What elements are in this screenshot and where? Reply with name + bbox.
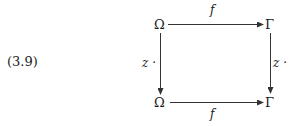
label-right-z: z ·	[273, 57, 287, 69]
node-top-right: Γ	[265, 18, 274, 31]
label-left-z: z ·	[142, 57, 156, 69]
node-bottom-right: Γ	[265, 96, 274, 109]
node-top-left: Ω	[154, 18, 165, 31]
node-bottom-left: Ω	[154, 96, 165, 109]
label-top-f: f	[210, 4, 214, 16]
label-bottom-f: f	[210, 108, 214, 120]
